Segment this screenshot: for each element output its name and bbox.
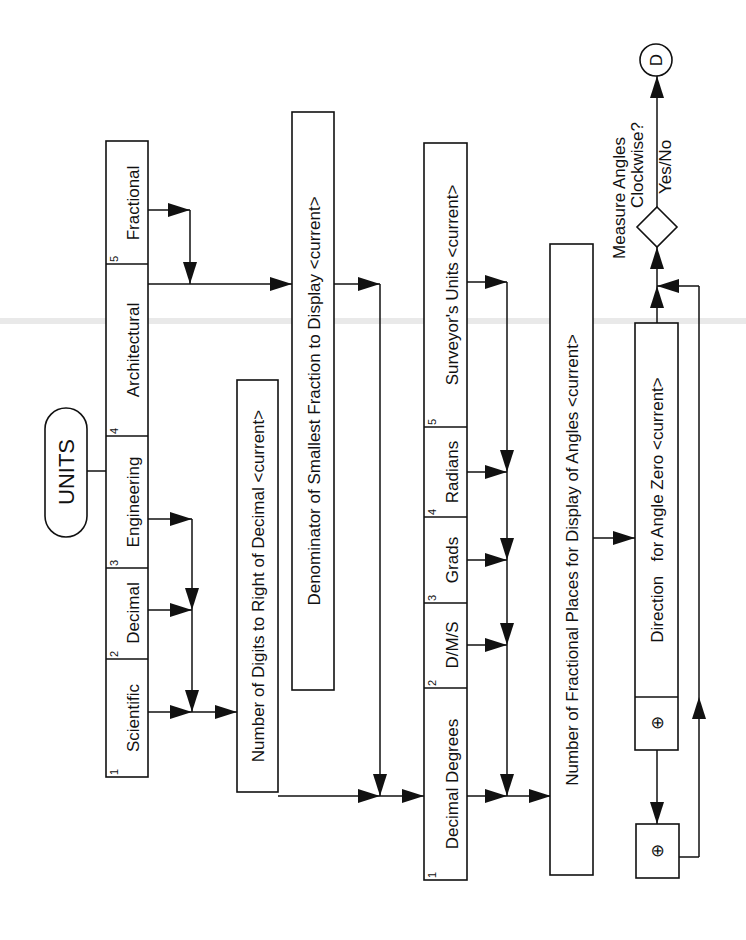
direction-prompt-cell[interactable]: Direction for Angle Zero <current> bbox=[648, 377, 667, 643]
direction-pick-point-cell[interactable]: ⊕ bbox=[648, 716, 667, 730]
arrow-down-icon bbox=[650, 802, 664, 824]
denominator-prompt-box[interactable]: Denominator of Smallest Fraction to Disp… bbox=[292, 112, 334, 690]
radians-label: Radians bbox=[443, 441, 462, 503]
arrow-right-icon bbox=[358, 789, 380, 803]
arrow-right-icon bbox=[270, 277, 292, 291]
offpage-connector-d[interactable]: D bbox=[640, 44, 672, 76]
svg-text:2: 2 bbox=[108, 651, 120, 657]
units-to-digits-arrows bbox=[148, 512, 237, 719]
scientific-label: Scientific bbox=[124, 683, 143, 752]
clockwise-decision[interactable]: Measure Angles Clockwise? Yes/No bbox=[610, 122, 677, 259]
fractional-places-prompt-box[interactable]: Number of Fractional Places for Display … bbox=[550, 244, 593, 875]
arrow-right-icon bbox=[485, 638, 507, 652]
svg-text:4: 4 bbox=[426, 509, 438, 515]
arrow-down-icon bbox=[373, 774, 387, 796]
crosshair-circle-icon: ⊕ bbox=[648, 716, 667, 730]
svg-text:3: 3 bbox=[426, 595, 438, 601]
arrow-down-icon bbox=[185, 588, 199, 610]
arrow-right-icon bbox=[168, 203, 190, 217]
decision-question-line1: Measure Angles bbox=[610, 137, 629, 259]
arrow-right-icon bbox=[529, 789, 551, 803]
arrow-right-icon bbox=[170, 603, 192, 617]
arrow-up-icon bbox=[650, 247, 664, 269]
crosshair-circle-icon: ⊕ bbox=[648, 844, 667, 858]
dms-label: D/M/S bbox=[443, 621, 462, 668]
svg-text:5: 5 bbox=[108, 256, 120, 262]
angle-to-fractional-arrows bbox=[467, 275, 551, 803]
surveyors-units-label: Surveyor's Units <current> bbox=[443, 185, 462, 386]
connector-label: D bbox=[647, 54, 666, 66]
units-title: UNITS bbox=[54, 439, 79, 505]
arrow-right-icon bbox=[358, 277, 380, 291]
arrow-right-icon bbox=[613, 531, 635, 545]
architectural-label: Architectural bbox=[124, 303, 143, 397]
svg-text:1: 1 bbox=[108, 769, 120, 775]
arrow-down-icon bbox=[185, 690, 199, 712]
decision-answer: Yes/No bbox=[656, 140, 675, 194]
arrow-up-icon bbox=[650, 286, 664, 308]
svg-text:3: 3 bbox=[108, 560, 120, 566]
digits-prompt-box[interactable]: Number of Digits to Right of Decimal <cu… bbox=[237, 380, 278, 792]
svg-text:1: 1 bbox=[426, 872, 438, 878]
arrow-right-icon bbox=[485, 789, 507, 803]
decimal-label: Decimal bbox=[124, 582, 143, 643]
engineering-label: Engineering bbox=[124, 457, 143, 548]
arrow-down-icon bbox=[500, 538, 514, 560]
arrow-down-icon bbox=[500, 774, 514, 796]
fractional-label: Fractional bbox=[124, 166, 143, 241]
units-flowchart: UNITS 1 Scientific 2 Decimal 3 Engineeri… bbox=[0, 0, 746, 940]
arrow-right-icon bbox=[485, 553, 507, 567]
arrow-right-icon bbox=[215, 705, 237, 719]
fractional-to-direction-arrow bbox=[593, 531, 635, 545]
units-start-terminator: UNITS bbox=[45, 408, 87, 537]
decision-question-line2: Clockwise? bbox=[628, 122, 647, 208]
grads-label: Grads bbox=[443, 537, 462, 583]
arrow-down-icon bbox=[183, 262, 197, 284]
direction-prompt-label: Direction for Angle Zero <current> bbox=[648, 377, 667, 643]
pick-point-box[interactable]: ⊕ bbox=[636, 824, 679, 878]
arrow-left-icon bbox=[657, 279, 679, 293]
decimal-degrees-label: Decimal Degrees bbox=[443, 719, 462, 849]
arrow-right-icon bbox=[485, 275, 507, 289]
denominator-prompt-label: Denominator of Smallest Fraction to Disp… bbox=[305, 196, 324, 605]
arrow-right-icon bbox=[170, 512, 192, 526]
arrow-right-icon bbox=[485, 465, 507, 479]
svg-text:4: 4 bbox=[108, 428, 120, 434]
arrow-right-icon bbox=[170, 705, 192, 719]
arrow-down-icon bbox=[500, 450, 514, 472]
svg-text:5: 5 bbox=[426, 419, 438, 425]
units-to-denominator-arrows bbox=[148, 203, 292, 291]
arrow-down-icon bbox=[500, 623, 514, 645]
decision-diamond bbox=[637, 207, 677, 247]
svg-text:2: 2 bbox=[426, 680, 438, 686]
digits-prompt-label: Number of Digits to Right of Decimal <cu… bbox=[249, 410, 268, 762]
arrow-up-icon bbox=[692, 697, 706, 719]
arrow-up-icon bbox=[650, 76, 664, 98]
arrow-right-icon bbox=[402, 789, 424, 803]
fractional-places-label: Number of Fractional Places for Display … bbox=[563, 334, 582, 786]
